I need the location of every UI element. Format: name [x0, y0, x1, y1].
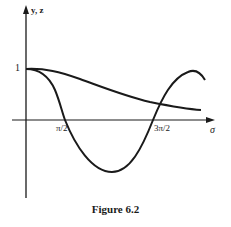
y-tick-one: 1 [15, 63, 20, 73]
y-axis-label: y, z [31, 6, 44, 15]
plot-area [0, 0, 231, 227]
x-tick-3pi-over-2: 3π/2 [154, 124, 170, 133]
x-axis-arrow-icon [206, 117, 215, 123]
figure-caption: Figure 6.2 [0, 204, 231, 215]
decaying-curve [26, 69, 201, 110]
x-axis-label: σ [210, 125, 215, 135]
y-axis-arrow-icon [23, 5, 29, 14]
figure-6-2: y, z 1 π/2 3π/2 σ Figure 6.2 [0, 0, 231, 227]
x-tick-pi-over-2: π/2 [56, 124, 68, 133]
